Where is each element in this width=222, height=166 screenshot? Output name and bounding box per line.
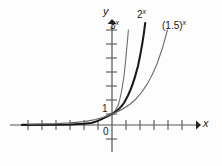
curve-label-1point5x-base: (1.5) [162,20,183,31]
y-tick-label-one: 1 [102,104,108,114]
x-axis-arrowhead [196,121,201,130]
curve-label-2x-exponent: x [143,8,147,15]
curve-2-to-the-x [22,23,145,125]
curve-label-1point5x: (1.5)x [162,21,186,31]
curve-label-3x: 3x [110,21,119,31]
x-axis-label: x [203,118,209,129]
curve-label-2x: 2x [137,10,146,20]
curve-label-1point5x-exponent: x [183,19,187,26]
origin-label-zero: 0 [103,127,109,137]
curve-label-3x-exponent: x [116,19,120,26]
y-axis-label: y [103,6,109,17]
curve-1-point-5-to-the-x [28,30,167,124]
exponential-functions-graph: y x 1 0 3x 2x (1.5)x [0,0,222,166]
